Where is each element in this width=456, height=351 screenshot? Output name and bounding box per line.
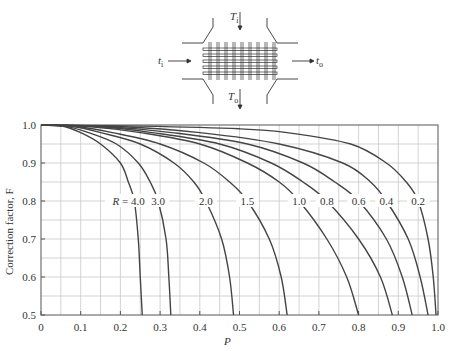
y-tick-label: 0.8 <box>22 195 36 207</box>
x-tick-label: 0.7 <box>312 321 326 333</box>
x-tick-label: 0.9 <box>391 321 405 333</box>
curve-label: 2.0 <box>199 195 213 207</box>
right-housing-top <box>267 18 298 43</box>
curve-label: 0.2 <box>411 195 425 207</box>
core-tubes-fins <box>203 42 277 80</box>
y-tick-label: 0.7 <box>22 233 36 245</box>
crossflow-schematic <box>168 12 314 109</box>
y-tick-label: 0.5 <box>22 309 36 321</box>
left-housing-bottom <box>182 79 213 104</box>
y-axis-label: Correction factor, F <box>3 188 15 275</box>
x-tick-label: 0.4 <box>193 321 207 333</box>
figure: Ti To ti to 00.10.20.30.40.50.60.70.80.9… <box>0 0 456 351</box>
y-tick-label: 0.9 <box>22 157 36 169</box>
cold-in-label: ti <box>158 54 164 69</box>
right-housing-bottom <box>267 79 298 104</box>
chart-grid <box>41 125 438 315</box>
curve-label: 3.0 <box>151 195 165 207</box>
cold-out-label: to <box>316 54 323 69</box>
schematic-labels: Ti To ti to <box>158 10 323 105</box>
curve-label: 0.6 <box>352 195 366 207</box>
x-tick-label: 0.1 <box>74 321 88 333</box>
x-tick-label: 0 <box>38 321 44 333</box>
axis-ticks: 00.10.20.30.40.50.60.70.80.91.00.50.60.7… <box>22 119 445 333</box>
left-housing-top <box>182 18 213 43</box>
x-tick-label: 0.2 <box>114 321 128 333</box>
x-tick-label: 0.5 <box>233 321 247 333</box>
x-axis-label: P <box>223 335 231 347</box>
x-tick-label: 0.3 <box>153 321 167 333</box>
x-tick-label: 0.8 <box>352 321 366 333</box>
hot-in-label: Ti <box>230 10 239 25</box>
y-tick-label: 1.0 <box>22 119 36 131</box>
curve-labels: R = 4.03.02.01.51.00.80.60.40.2 <box>105 194 430 207</box>
curve-label: 1.0 <box>292 195 306 207</box>
y-tick-label: 0.6 <box>22 271 36 283</box>
x-tick-label: 1.0 <box>431 321 445 333</box>
hot-out-label: To <box>228 90 238 105</box>
curve-label: 0.8 <box>320 195 334 207</box>
curve-label: 0.4 <box>380 195 394 207</box>
curve-label: R = 4.0 <box>111 195 145 207</box>
curve-label: 1.5 <box>241 195 255 207</box>
x-tick-label: 0.6 <box>272 321 286 333</box>
